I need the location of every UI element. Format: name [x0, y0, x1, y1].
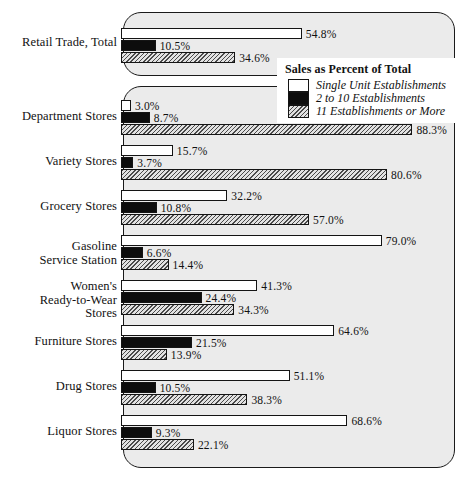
category-label: Women'sReady-to-WearStores: [0, 280, 117, 321]
bar-value-label: 10.8%: [157, 202, 192, 214]
bar-group: Drug Stores51.1%10.5%38.3%: [0, 370, 469, 412]
bar-row: 32.2%: [121, 190, 469, 201]
bar-segment: [121, 214, 309, 225]
bar-segment: [121, 202, 157, 213]
bar-group: Liquor Stores68.6%9.3%22.1%: [0, 415, 469, 457]
bar-value-label: 8.7%: [150, 112, 179, 124]
bar-segment: [121, 292, 202, 303]
bar-value-label: 57.0%: [309, 214, 344, 226]
bar-value-label: 10.5%: [156, 382, 191, 394]
bar-value-label: 22.1%: [194, 439, 229, 451]
bar-row: 6.6%: [121, 247, 469, 258]
bar-value-label: 24.4%: [202, 292, 237, 304]
category-label: Drug Stores: [0, 380, 117, 394]
bar-segment: [121, 370, 290, 381]
bar-row: 34.3%: [121, 304, 469, 315]
legend-item: 11 Establishments or More: [283, 105, 465, 118]
bar-row: 88.3%: [121, 124, 469, 135]
bar-stack: 64.6%21.5%13.9%: [121, 325, 469, 367]
bar-segment: [121, 337, 192, 348]
bar-row: 64.6%: [121, 325, 469, 336]
chart-legend: Sales as Percent of Total Single Unit Es…: [277, 58, 469, 123]
bar-group: GasolineService Station79.0%6.6%14.4%: [0, 235, 469, 277]
bar-stack: 51.1%10.5%38.3%: [121, 370, 469, 412]
legend-title: Sales as Percent of Total: [285, 62, 465, 77]
bar-segment: [121, 112, 150, 123]
bar-segment: [121, 259, 169, 270]
bar-row: 57.0%: [121, 214, 469, 225]
bar-value-label: 13.9%: [167, 349, 202, 361]
bar-value-label: 80.6%: [387, 169, 422, 181]
bar-value-label: 54.8%: [302, 28, 337, 40]
bar-group: Variety Stores15.7%3.7%80.6%: [0, 145, 469, 187]
bar-stack: 41.3%24.4%34.3%: [121, 280, 469, 322]
bar-segment: [121, 415, 347, 426]
bar-value-label: 38.3%: [247, 394, 282, 406]
bar-value-label: 88.3%: [412, 124, 447, 136]
bar-segment: [121, 157, 133, 168]
bar-value-label: 9.3%: [152, 427, 181, 439]
bar-segment: [121, 52, 235, 63]
bar-segment: [121, 169, 387, 180]
bar-value-label: 41.3%: [257, 280, 292, 292]
bar-value-label: 32.2%: [227, 190, 262, 202]
legend-item-label: 11 Establishments or More: [309, 105, 445, 118]
bar-value-label: 34.3%: [234, 304, 269, 316]
bar-row: 9.3%: [121, 427, 469, 438]
category-label: Furniture Stores: [0, 335, 117, 349]
bar-value-label: 64.6%: [334, 325, 369, 337]
bar-segment: [121, 382, 156, 393]
bar-group: Women'sReady-to-WearStores41.3%24.4%34.3…: [0, 280, 469, 322]
legend-swatch-icon: [288, 92, 309, 105]
bar-row: 13.9%: [121, 349, 469, 360]
bar-row: 10.8%: [121, 202, 469, 213]
category-label: Retail Trade, Total: [0, 36, 117, 50]
category-label: Variety Stores: [0, 155, 117, 169]
bar-value-label: 3.7%: [133, 157, 162, 169]
bar-row: 41.3%: [121, 280, 469, 291]
bar-value-label: 21.5%: [192, 337, 227, 349]
bar-segment: [121, 349, 167, 360]
bar-row: 51.1%: [121, 370, 469, 381]
bar-row: 80.6%: [121, 169, 469, 180]
chart-container: Retail Trade, Total54.8%10.5%34.6%Depart…: [0, 0, 469, 482]
bar-segment: [121, 427, 152, 438]
bar-value-label: 34.6%: [235, 52, 270, 64]
legend-swatch-icon: [288, 105, 309, 118]
bar-row: 38.3%: [121, 394, 469, 405]
bar-segment: [121, 28, 302, 39]
bar-row: 14.4%: [121, 259, 469, 270]
bar-value-label: 79.0%: [382, 235, 417, 247]
legend-swatch-icon: [288, 79, 309, 92]
bar-row: 22.1%: [121, 439, 469, 450]
bar-value-label: 68.6%: [347, 415, 382, 427]
bar-stack: 15.7%3.7%80.6%: [121, 145, 469, 187]
bar-group: Grocery Stores32.2%10.8%57.0%: [0, 190, 469, 232]
bar-row: 79.0%: [121, 235, 469, 246]
bar-segment: [121, 304, 234, 315]
bar-value-label: 14.4%: [169, 259, 204, 271]
bar-value-label: 15.7%: [173, 145, 208, 157]
bar-stack: 68.6%9.3%22.1%: [121, 415, 469, 457]
legend-items: Single Unit Establishments2 to 10 Establ…: [283, 79, 465, 118]
bar-stack: 32.2%10.8%57.0%: [121, 190, 469, 232]
bar-stack: 79.0%6.6%14.4%: [121, 235, 469, 277]
bar-row: 21.5%: [121, 337, 469, 348]
bar-segment: [121, 394, 247, 405]
bar-row: 15.7%: [121, 145, 469, 156]
bar-segment: [121, 100, 131, 111]
bar-row: 68.6%: [121, 415, 469, 426]
bar-row: 3.7%: [121, 157, 469, 168]
bar-value-label: 10.5%: [156, 40, 191, 52]
bar-segment: [121, 247, 143, 258]
bar-segment: [121, 325, 334, 336]
category-label: GasolineService Station: [0, 240, 117, 267]
bar-segment: [121, 280, 257, 291]
bar-value-label: 51.1%: [290, 370, 325, 382]
bar-row: 24.4%: [121, 292, 469, 303]
bar-group: Furniture Stores64.6%21.5%13.9%: [0, 325, 469, 367]
bar-segment: [121, 124, 412, 135]
bar-value-label: 6.6%: [143, 247, 172, 259]
bar-segment: [121, 145, 173, 156]
bar-value-label: 3.0%: [131, 100, 160, 112]
